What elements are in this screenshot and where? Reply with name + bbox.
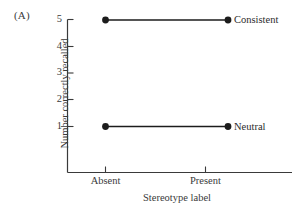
data-point-neutral-present bbox=[225, 123, 232, 130]
figure-panel-a: (A) 5 4 3 2 1 Absent Present Number corr… bbox=[0, 0, 301, 211]
data-point-neutral-absent bbox=[102, 123, 109, 130]
x-tick-label-absent: Absent bbox=[75, 176, 136, 187]
x-tick-label-present: Present bbox=[175, 176, 236, 187]
y-axis-title: Number correctly recalled bbox=[59, 24, 70, 164]
series-label-consistent: Consistent bbox=[234, 15, 278, 26]
series-label-neutral: Neutral bbox=[234, 122, 266, 133]
data-point-consistent-absent bbox=[102, 17, 109, 24]
x-axis-title: Stereotype label bbox=[67, 192, 287, 203]
y-axis-title-wrap: Number correctly recalled bbox=[38, 28, 52, 168]
data-point-consistent-present bbox=[225, 17, 232, 24]
